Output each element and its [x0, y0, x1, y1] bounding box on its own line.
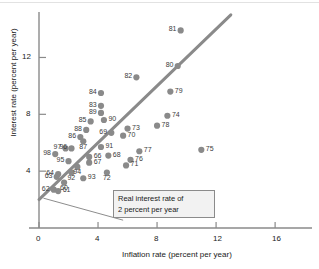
data-point [68, 145, 74, 151]
data-point-label: 85 [79, 116, 87, 123]
data-point-label: 68 [113, 151, 121, 158]
data-point [54, 174, 60, 180]
data-point-label: 61 [63, 186, 71, 193]
x-axis-title: Inflation rate (percent per year) [122, 250, 232, 259]
data-point [164, 113, 170, 119]
data-point-label: 88 [74, 125, 82, 132]
scatter-chart-figure: 04812164812 8180827984838974908578738869… [0, 0, 319, 269]
data-point-label: 78 [162, 121, 170, 128]
data-point [108, 130, 114, 136]
data-point-label: 80 [166, 61, 174, 68]
data-point-label: 89 [89, 108, 97, 115]
data-point [133, 74, 139, 80]
data-point [86, 160, 92, 166]
data-point-label: 70 [128, 131, 136, 138]
callout-line-2: 2 percent per year [118, 204, 210, 215]
trend-line [39, 15, 231, 200]
x-tick-label: 12 [213, 234, 222, 243]
data-point-label: 84 [89, 88, 97, 95]
data-point-label: 71 [131, 160, 139, 167]
data-point-label: 72 [103, 174, 111, 181]
data-point-label: 98 [43, 149, 51, 156]
data-point-label: 86 [68, 132, 76, 139]
x-tick-label: 4 [95, 234, 99, 243]
data-point [98, 103, 104, 109]
data-point-label: 73 [132, 124, 140, 131]
data-point [88, 118, 94, 124]
y-tick-label: 12 [22, 52, 31, 61]
trend-line-segment [39, 15, 231, 200]
x-tick-label: 16 [272, 234, 281, 243]
data-point-label: 96 [59, 143, 67, 150]
data-point-label: 79 [175, 87, 183, 94]
data-point-label: 62 [42, 185, 50, 192]
data-point-label: 63 [45, 172, 53, 179]
data-point [154, 123, 160, 129]
data-point-label: 87 [79, 143, 87, 150]
data-point [98, 90, 104, 96]
data-point-label: 91 [105, 142, 113, 149]
y-tick-label: 8 [26, 109, 30, 118]
data-point-label: 74 [172, 111, 180, 118]
annotation-callout: Real interest rate of 2 percent per year [113, 190, 215, 218]
data-point-label: 95 [57, 156, 65, 163]
data-point [175, 63, 181, 69]
data-point [123, 162, 129, 168]
data-point [178, 27, 184, 33]
data-point [86, 154, 92, 160]
data-point-label: 92 [67, 174, 75, 181]
data-point-label: 69 [99, 128, 107, 135]
data-point-label: 67 [94, 158, 102, 165]
y-tick-label: 4 [26, 166, 30, 175]
data-point-label: 90 [108, 115, 116, 122]
data-point-label: 93 [88, 173, 96, 180]
leader-line [43, 198, 123, 220]
data-point-label: 83 [89, 101, 97, 108]
data-point [80, 175, 86, 181]
y-axis-title: Interest rate (percent per year) [9, 23, 18, 143]
data-point [98, 110, 104, 116]
data-point-label: 75 [206, 145, 214, 152]
data-point [120, 133, 126, 139]
data-point [198, 147, 204, 153]
data-point [167, 88, 173, 94]
data-point-label: 77 [144, 146, 152, 153]
x-tick-label: 0 [36, 234, 40, 243]
data-point [105, 152, 111, 158]
callout-leader-line [43, 198, 123, 220]
plot-canvas [0, 0, 319, 269]
data-point [101, 117, 107, 123]
data-point-label: 82 [124, 72, 132, 79]
data-point [136, 148, 142, 154]
data-point-label: 81 [169, 25, 177, 32]
x-tick-label: 8 [154, 234, 158, 243]
data-point [98, 144, 104, 150]
callout-line-1: Real interest rate of [118, 193, 210, 204]
data-point [65, 158, 71, 164]
data-point [83, 127, 89, 133]
